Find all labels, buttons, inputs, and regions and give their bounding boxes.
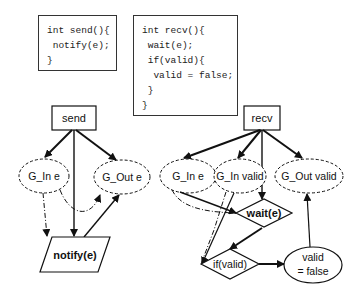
notify-label: notify(e) [53, 249, 97, 261]
recv-label: recv [252, 112, 273, 124]
edge-wait-to-if [230, 228, 262, 249]
assign-label-line1: valid [302, 251, 324, 263]
edge-send-to-gout [76, 130, 116, 160]
if-valid-node: if(valid) [201, 249, 259, 279]
edge-gin-to-gout [60, 190, 100, 211]
g-out-e-label: G_Out e [102, 171, 142, 183]
recv-node: recv [244, 106, 280, 130]
edge-send-to-gin [45, 130, 72, 157]
g-out-valid-node: G_Out valid [275, 159, 343, 193]
g-out-valid-label: G_Out valid [281, 170, 337, 182]
edge-recv-to-gout-valid [263, 130, 302, 158]
wait-node: wait(e) [236, 199, 292, 227]
g-in-valid-node: G_In valid [214, 159, 266, 193]
assign-node: valid = false [284, 247, 342, 283]
g-in-e-recv-node: G_In e [160, 159, 216, 193]
g-in-e-recv-label: G_In e [172, 170, 204, 182]
send-node: send [52, 106, 96, 130]
wait-label: wait(e) [246, 207, 282, 219]
g-out-e-node: G_Out e [94, 160, 150, 194]
notify-node: notify(e) [40, 237, 110, 272]
flow-graph: send G_In e G_Out e notify(e) recv G_In … [0, 0, 360, 298]
edge-gin-to-notify [43, 193, 47, 236]
g-in-valid-label: G_In valid [216, 170, 263, 182]
g-in-e-label: G_In e [28, 170, 60, 182]
if-valid-label: if(valid) [213, 258, 247, 270]
send-label: send [62, 112, 86, 124]
edge-gin-e-to-wait [180, 192, 236, 213]
assign-label-line2: = false [297, 265, 328, 277]
g-in-e-send-node: G_In e [19, 159, 69, 193]
edge-notify-to-gout [84, 195, 119, 237]
edge-assign-to-gout-valid [307, 194, 310, 247]
